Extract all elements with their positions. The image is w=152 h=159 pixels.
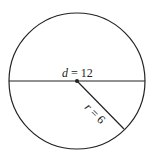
diameter-label: d = 12	[62, 66, 93, 80]
radius-label: r = 6	[82, 100, 108, 126]
circle-diagram: d = 12 r = 6	[0, 0, 152, 159]
